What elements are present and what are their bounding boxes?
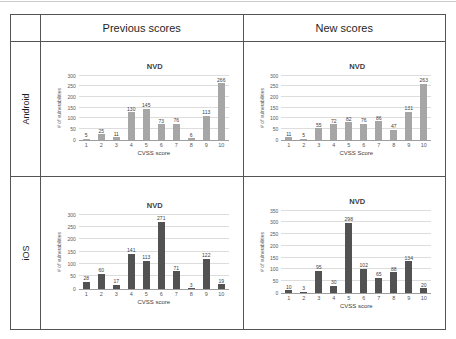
bar-slot: 11 [281, 76, 296, 140]
chart-cell-android-previous: NVD# of vulnerabilities05010015020025030… [40, 41, 243, 176]
bar [188, 138, 195, 139]
bar-slot: 122 [199, 215, 214, 289]
chart-title: NVD [349, 62, 365, 71]
bar [420, 84, 427, 140]
bar-slot: 113 [199, 76, 214, 140]
bar-slot: 113 [139, 215, 154, 289]
bar [173, 271, 180, 289]
bar [300, 292, 307, 293]
x-axis-title: CVSS score [281, 301, 431, 309]
scores-comparison-table: Previous scores New scores Android NVD# … [10, 14, 446, 330]
row-header-ios-label: iOS [20, 245, 30, 260]
chart-cell-ios-previous: NVD# of vulnerabilities05010015020025030… [40, 176, 243, 329]
bars: 115557282768647131263 [281, 76, 431, 140]
y-tick-label: 200 [270, 95, 278, 100]
bar [128, 112, 135, 140]
page-top-rule [0, 1, 456, 2]
y-tick-label: 50 [273, 127, 279, 132]
bar [98, 134, 105, 139]
bar [375, 121, 382, 139]
bar-slot: 19 [214, 215, 229, 289]
y-tick-label: 0 [73, 286, 76, 291]
bars: 1039530298102658813420 [281, 211, 431, 293]
bar-slot: 95 [311, 211, 326, 293]
row-header-android-label: Android [21, 93, 31, 124]
bar [173, 124, 180, 140]
y-tick-label: 350 [270, 208, 278, 213]
bar [405, 112, 412, 140]
bar-slot: 47 [386, 76, 401, 140]
plot-area: 28601714111327171312219 [79, 215, 229, 290]
y-tick-label: 100 [270, 267, 278, 272]
y-tick-label: 50 [273, 279, 279, 284]
row-header-ios: iOS [11, 176, 40, 329]
bar-slot: 20 [416, 211, 431, 293]
y-axis-title-text: # of vulnerabilities [259, 88, 265, 128]
bar-slot: 76 [356, 76, 371, 140]
x-axis-title: CVSS score [79, 148, 229, 156]
plot-area: 115557282768647131263 [281, 76, 431, 141]
y-tick-label: 300 [270, 73, 278, 78]
bar [83, 282, 90, 289]
bar [315, 128, 322, 140]
bar-slot: 73 [154, 76, 169, 140]
bar [285, 137, 292, 139]
y-tick-label: 50 [70, 127, 76, 132]
y-tick-label: 100 [67, 262, 75, 267]
chart-grid: # of vulnerabilities05010015020025030035… [257, 211, 431, 310]
bar-slot: 298 [341, 211, 356, 293]
y-tick-label: 300 [67, 212, 75, 217]
y-tick-label: 250 [67, 225, 75, 230]
bar-slot: 3 [296, 211, 311, 293]
bar-slot: 28 [79, 215, 94, 289]
y-tick-label: 300 [270, 220, 278, 225]
bar-slot: 263 [416, 76, 431, 140]
bar-slot: 82 [341, 76, 356, 140]
bar-slot: 141 [124, 215, 139, 289]
chart-grid: # of vulnerabilities05010015020025030028… [55, 215, 229, 306]
plot-area: 5251113014573766113266 [79, 76, 229, 141]
table-corner-cell [11, 15, 40, 41]
y-tick-label: 0 [73, 137, 76, 142]
bar [218, 83, 225, 140]
y-axis-title-text: # of vulnerabilities [259, 232, 265, 272]
bar [143, 109, 150, 140]
chart-grid: # of vulnerabilities05010015020025030011… [257, 76, 431, 157]
bar-chart-android-previous: NVD# of vulnerabilities05010015020025030… [55, 62, 229, 157]
bar-slot: 60 [94, 215, 109, 289]
y-axis-title: # of vulnerabilities [55, 215, 64, 290]
bar-slot: 5 [79, 76, 94, 140]
bar-slot: 130 [124, 76, 139, 140]
bar [360, 124, 367, 140]
bar-slot: 30 [326, 211, 341, 293]
chart-cell-ios-new: NVD# of vulnerabilities05010015020025030… [243, 176, 446, 329]
y-tick-label: 250 [270, 84, 278, 89]
y-tick-label: 100 [67, 116, 75, 121]
y-tick-label: 150 [270, 255, 278, 260]
bar-slot: 10 [281, 211, 296, 293]
y-tick-label: 150 [67, 249, 75, 254]
plot-area: 1039530298102658813420 [281, 211, 431, 294]
bar-slot: 76 [169, 76, 184, 140]
y-tick-label: 200 [67, 95, 75, 100]
y-tick-label: 0 [275, 290, 278, 295]
bar-slot: 25 [94, 76, 109, 140]
y-axis-title-text: # of vulnerabilities [56, 88, 62, 128]
bar-slot: 134 [401, 211, 416, 293]
y-tick-label: 300 [67, 73, 75, 78]
y-tick-label: 50 [70, 274, 76, 279]
bar [420, 288, 427, 293]
chart-title: NVD [349, 197, 365, 206]
bar [203, 259, 210, 289]
bar [218, 284, 225, 289]
bar [83, 139, 90, 140]
bar-slot: 86 [371, 76, 386, 140]
y-tick-label: 250 [270, 232, 278, 237]
x-axis: 12345678910 [79, 290, 229, 298]
chart-grid: # of vulnerabilities05010015020025030052… [55, 76, 229, 157]
bar [143, 261, 150, 289]
x-axis: 12345678910 [79, 141, 229, 149]
bar [390, 130, 397, 140]
y-axis-title: # of vulnerabilities [257, 211, 266, 294]
bar [285, 290, 292, 292]
